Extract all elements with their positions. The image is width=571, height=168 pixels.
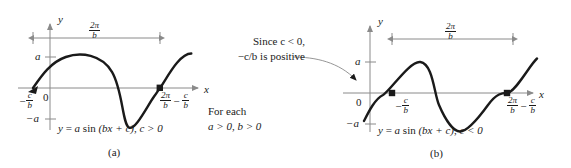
y-axis-label: y (58, 14, 63, 25)
left-zero-fraction: c b (402, 96, 409, 116)
amplitude-negative-label: −a (26, 113, 39, 124)
equation-argument: (bx + c) (98, 122, 134, 134)
equation-function: sin (403, 124, 416, 136)
y-axis-label: y (378, 16, 383, 27)
right-zero-fraction-1: 2π b (160, 91, 171, 111)
right-zero-denominator-1: b (160, 101, 171, 110)
equation-lhs: y (378, 124, 383, 136)
right-zero-operator: − (518, 101, 529, 112)
origin-label: 0 (356, 97, 362, 108)
amplitude-negative-letter: a (33, 112, 39, 124)
shared-note: For each a > 0, b > 0 (208, 104, 261, 134)
left-zero-sign: − (19, 96, 26, 107)
panel-a: y x a −a 0 2π b − c b 2π b (0, 0, 285, 168)
shared-note-line1: For each (208, 104, 261, 119)
right-zero-denominator-1: b (507, 106, 518, 115)
origin-label: 0 (43, 92, 49, 103)
x-axis-label: x (204, 84, 209, 95)
period-denominator: b (445, 32, 456, 41)
equation-argument: (bx + c) (418, 124, 454, 136)
amplitude-negative-label: −a (346, 118, 359, 129)
equation-condition: c > 0 (139, 122, 162, 134)
period-label: 2π b (445, 23, 456, 43)
panel-a-graph (0, 0, 285, 168)
left-zero-crossing-dot (389, 90, 395, 96)
shared-note-line2: a > 0, b > 0 (208, 119, 261, 134)
left-zero-denominator: b (402, 106, 409, 115)
right-zero-denominator-2: b (529, 106, 536, 115)
panel-b: y x a −a 0 2π b − c b 2π b (285, 0, 571, 168)
equation-amplitude: a (395, 124, 401, 136)
equation-equals: = (66, 122, 72, 134)
left-zero-sign: − (395, 101, 402, 112)
left-zero-denominator: b (26, 101, 33, 110)
phase-shift-annotation: Since c < 0, −c/b is positive (5, 34, 305, 64)
panel-b-caption: (b) (430, 147, 443, 159)
right-zero-fraction-2: c b (182, 91, 189, 111)
amplitude-positive-label: a (355, 56, 361, 67)
trig-phase-shift-figure: y x a −a 0 2π b − c b 2π b (0, 0, 571, 168)
panel-b-graph (285, 0, 571, 168)
right-zero-label: 2π b − c b (160, 92, 189, 112)
right-zero-fraction-2: c b (529, 96, 536, 116)
equation-amplitude: a (75, 122, 81, 134)
equation-comma: , (134, 122, 137, 134)
left-zero-fraction: c b (26, 91, 33, 111)
amplitude-negative-letter: a (353, 117, 359, 129)
equation-function: sin (83, 122, 96, 134)
equation-comma: , (454, 124, 457, 136)
left-zero-label: − c b (395, 97, 409, 117)
equation-equals: = (386, 124, 392, 136)
period-fraction: 2π b (445, 22, 456, 42)
panel-a-caption: (a) (108, 146, 120, 158)
right-zero-operator: − (171, 96, 182, 107)
equation-lhs: y (58, 122, 63, 134)
equation-condition: c < 0 (459, 124, 482, 136)
annotation-line-1: Since c < 0, (5, 34, 305, 49)
right-zero-denominator-2: b (182, 101, 189, 110)
panel-a-equation: y = a sin (bx + c), c > 0 (58, 122, 163, 134)
right-zero-label: 2π b − c b (507, 97, 536, 117)
panel-b-equation: y = a sin (bx + c), c < 0 (378, 124, 483, 136)
annotation-line-2: −c/b is positive (5, 49, 305, 64)
right-zero-fraction-1: 2π b (507, 96, 518, 116)
x-axis-label: x (539, 89, 544, 100)
left-zero-label: − c b (19, 92, 33, 112)
